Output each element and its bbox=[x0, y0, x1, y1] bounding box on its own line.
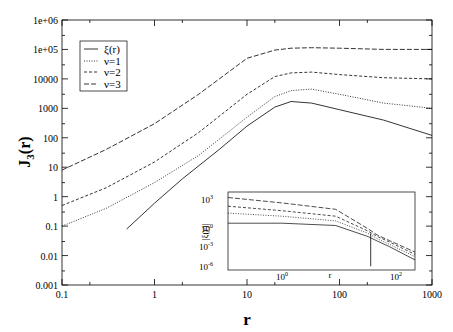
series-line bbox=[62, 72, 432, 205]
y-tick-label: 0.1 bbox=[46, 221, 59, 232]
y-axis-label: J3(r) bbox=[16, 136, 36, 167]
y-tick-label: 1e+06 bbox=[33, 15, 58, 26]
svg-text:J3(r): J3(r) bbox=[16, 136, 36, 167]
svg-text:10-6: 10-6 bbox=[199, 261, 213, 272]
y-tick-label: 0.01 bbox=[41, 251, 59, 262]
svg-text:r: r bbox=[329, 270, 332, 280]
y-tick-label: 1000 bbox=[38, 103, 58, 114]
x-tick-label: 1 bbox=[152, 289, 157, 300]
inset-plot: 103 100 10-3 10-6 100 102 r |ξ(r)| bbox=[199, 192, 415, 282]
legend-entry: ν=2 bbox=[104, 66, 121, 78]
x-tick-label: 1000 bbox=[422, 289, 442, 300]
svg-text:103: 103 bbox=[201, 194, 213, 205]
y-tick-label: 10 bbox=[48, 162, 58, 173]
chart: 0.111010010000.0010.010.1110100100010000… bbox=[0, 0, 453, 332]
legend: ξ(r) ν=1 ν=2 ν=3 bbox=[80, 41, 127, 91]
svg-text:|ξ(r)|: |ξ(r)| bbox=[200, 223, 210, 240]
y-tick-label: 1 bbox=[53, 192, 58, 203]
x-axis-label: r bbox=[243, 310, 251, 329]
x-tick-label: 100 bbox=[332, 289, 347, 300]
svg-text:102: 102 bbox=[390, 271, 402, 282]
x-tick-label: 10 bbox=[242, 289, 252, 300]
svg-text:10-3: 10-3 bbox=[199, 241, 213, 252]
y-tick-label: 1e+05 bbox=[33, 44, 58, 55]
svg-text:100: 100 bbox=[276, 271, 288, 282]
y-tick-label: 0.001 bbox=[36, 280, 59, 291]
y-tick-label: 100 bbox=[43, 133, 58, 144]
legend-entry: ν=3 bbox=[104, 78, 121, 90]
y-tick-label: 10000 bbox=[33, 74, 58, 85]
